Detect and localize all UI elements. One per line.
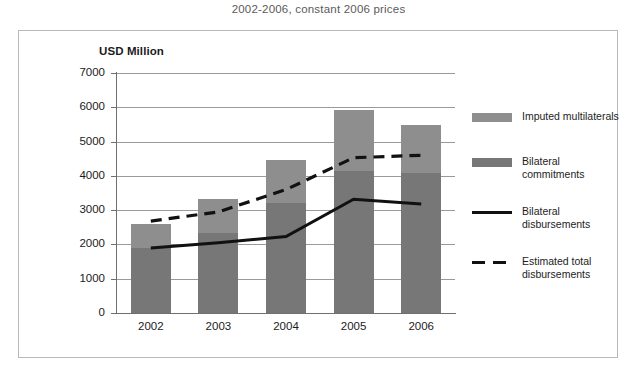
y-axis-label: 3000 — [43, 203, 105, 215]
x-axis-label: 2006 — [391, 320, 451, 332]
chart-subtitle: 2002-2006, constant 2006 prices — [0, 3, 637, 15]
plot-area — [117, 73, 455, 313]
legend-label: Bilateral commitments — [522, 155, 622, 180]
y-axis-label: 6000 — [43, 100, 105, 112]
legend-solid-line-icon — [472, 211, 512, 214]
y-axis-label: 1000 — [43, 272, 105, 284]
x-axis-label: 2003 — [188, 320, 248, 332]
y-axis-title: USD Million — [99, 45, 164, 57]
x-axis-label: 2002 — [121, 320, 181, 332]
y-axis-label: 2000 — [43, 237, 105, 249]
y-axis-label: 4000 — [43, 169, 105, 181]
line-series-group — [117, 73, 455, 313]
legend-swatch-icon — [472, 113, 512, 122]
legend-item: Bilateral commitments — [472, 155, 622, 180]
x-axis-label: 2005 — [324, 320, 384, 332]
y-axis-label: 5000 — [43, 135, 105, 147]
legend-label: Bilateral disbursements — [522, 205, 622, 230]
legend-label: Estimated total disbursements — [522, 255, 622, 280]
bilateral-disbursements-line — [151, 199, 421, 248]
legend-label: Imputed multilaterals — [522, 110, 622, 123]
chart-legend: Imputed multilateralsBilateral commitmen… — [472, 110, 622, 305]
y-axis-label: 0 — [43, 306, 105, 318]
x-axis-line — [116, 313, 456, 314]
x-axis-label: 2004 — [256, 320, 316, 332]
legend-swatch-icon — [472, 158, 512, 167]
legend-dashed-line-icon — [472, 261, 512, 264]
estimated-total-disbursements-line — [151, 155, 421, 221]
legend-item: Bilateral disbursements — [472, 205, 622, 230]
y-axis-label: 7000 — [43, 66, 105, 78]
legend-item: Estimated total disbursements — [472, 255, 622, 280]
y-axis-tick — [111, 313, 117, 314]
legend-item: Imputed multilaterals — [472, 110, 622, 130]
